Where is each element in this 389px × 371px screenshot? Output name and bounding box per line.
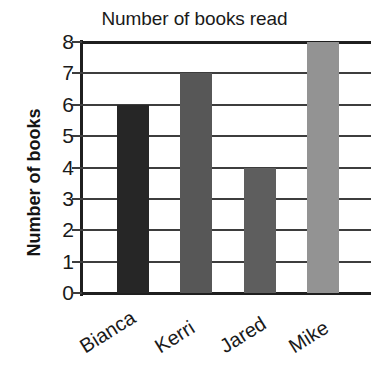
x-axis-tick-label: Jared xyxy=(216,312,271,358)
x-axis-tick-label: Kerri xyxy=(151,316,199,358)
y-axis-tick xyxy=(72,41,82,43)
y-axis-tick-label: 6 xyxy=(46,94,74,115)
y-axis-tick-label: 7 xyxy=(46,62,74,83)
y-axis-tick-label: 1 xyxy=(46,251,74,272)
bar-chart: Number of books read Number of books 876… xyxy=(0,0,389,371)
x-axis-tick-label: Mike xyxy=(285,316,333,358)
bar-kerri xyxy=(180,73,212,293)
y-axis-tick xyxy=(72,261,82,263)
y-axis-tick-label: 5 xyxy=(46,125,74,146)
plot-area xyxy=(82,42,371,293)
y-axis-tick-label: 8 xyxy=(46,31,74,52)
y-axis-tick xyxy=(72,167,82,169)
y-axis-tick xyxy=(72,72,82,74)
bar-mike xyxy=(307,42,339,293)
y-axis-tick-label: 3 xyxy=(46,188,74,209)
y-axis-tick xyxy=(72,292,82,294)
y-axis-tick xyxy=(72,104,82,106)
bar-bianca xyxy=(117,105,149,293)
x-axis-tick-label: Bianca xyxy=(76,306,140,358)
y-axis-tick xyxy=(72,198,82,200)
y-axis-tick-labels: 876543210 xyxy=(44,0,74,371)
y-axis-tick-label: 2 xyxy=(46,219,74,240)
bar-jared xyxy=(244,168,276,294)
y-axis-title: Number of books xyxy=(24,83,45,283)
y-axis-tick xyxy=(72,135,82,137)
y-axis-tick xyxy=(72,229,82,231)
y-axis-tick-label: 4 xyxy=(46,157,74,178)
y-axis-tick-label: 0 xyxy=(46,282,74,303)
